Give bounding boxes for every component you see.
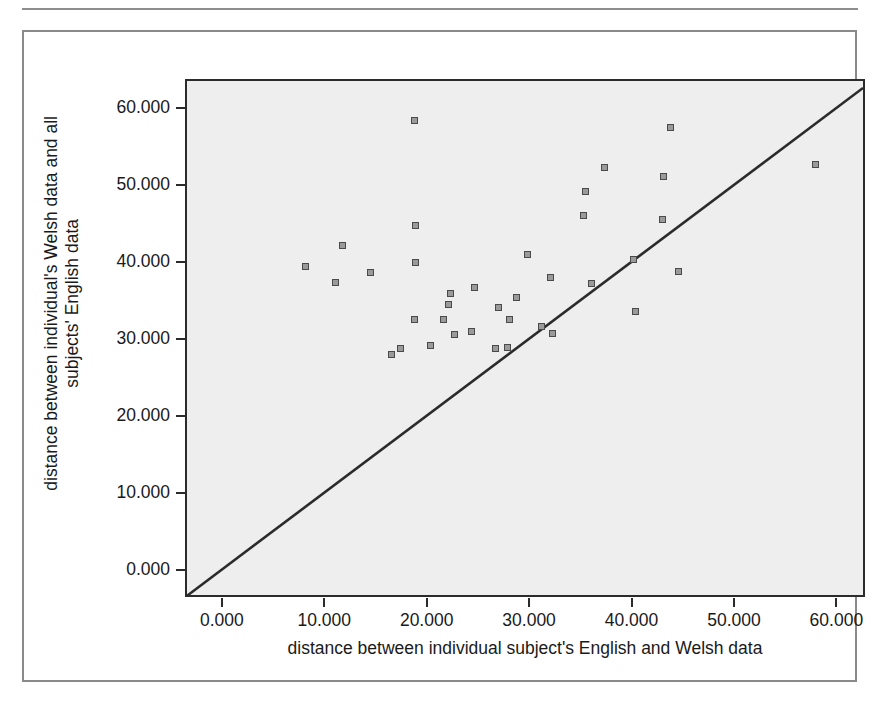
data-point-marker [302,263,309,270]
y-axis-title-line-1: distance between individual's Welsh data… [41,43,62,563]
data-point-marker [411,117,418,124]
data-point-marker [504,344,511,351]
y-axis-tick-label: 30.000 [116,330,170,348]
y-axis-tick-label: 40.000 [116,253,170,271]
y-axis-tick-label: 0.000 [126,561,170,579]
data-point-marker [630,256,637,263]
data-point-marker [632,308,639,315]
data-point-marker [440,316,447,323]
x-axis-tick-label: 40.000 [605,612,659,630]
data-point-marker [588,280,595,287]
x-axis-tick-label: 60.000 [810,612,864,630]
data-point-marker [538,323,545,330]
y-axis-tick-label: 10.000 [116,484,170,502]
y-axis-tick-label: 50.000 [116,176,170,194]
x-axis-tick-mark [221,598,223,607]
y-axis-tick-mark [176,569,185,571]
data-point-marker [524,251,531,258]
y-axis-tick-mark [176,415,185,417]
x-axis-tick-mark [426,598,428,607]
x-axis-title: distance between individual subject's En… [185,638,865,659]
data-point-marker [659,216,666,223]
y-axis-tick-mark [176,261,185,263]
plot-surface [187,81,863,595]
y-axis-tick-mark [176,492,185,494]
identity-reference-line [187,88,863,595]
data-point-marker [675,268,682,275]
reference-line-layer [187,81,863,595]
y-axis-title: distance between individual's Welsh data… [41,43,84,563]
x-axis-tick-label: 20.000 [400,612,454,630]
data-point-marker [506,316,513,323]
x-axis-tick-mark [528,598,530,607]
top-divider-rule [22,8,858,10]
data-point-marker [547,274,554,281]
data-point-marker [447,290,454,297]
data-point-marker [367,269,374,276]
data-point-marker [513,294,520,301]
data-point-marker [667,124,674,131]
data-point-marker [445,301,452,308]
data-point-marker [582,188,589,195]
x-axis-tick-label: 30.000 [502,612,556,630]
data-point-marker [549,330,556,337]
data-point-marker [411,316,418,323]
data-point-marker [660,173,667,180]
data-point-marker [468,328,475,335]
y-axis-tick-label: 60.000 [116,99,170,117]
data-point-marker [601,164,608,171]
x-axis-tick-label: 10.000 [297,612,351,630]
data-point-marker [495,304,502,311]
data-point-marker [492,345,499,352]
data-point-marker [580,212,587,219]
x-axis-tick-mark [631,598,633,607]
x-axis-tick-label: 0.000 [200,612,244,630]
x-axis-tick-mark [733,598,735,607]
scatter-plot-panel [185,79,865,597]
x-axis-tick-mark [323,598,325,607]
data-point-marker [412,222,419,229]
data-point-marker [812,161,819,168]
y-axis-tick-label: 20.000 [116,407,170,425]
data-point-marker [388,351,395,358]
y-axis-title-line-2: subjects' English data [62,43,83,563]
data-point-marker [412,259,419,266]
data-point-marker [427,342,434,349]
data-point-marker [332,279,339,286]
data-point-marker [339,242,346,249]
data-point-marker [451,331,458,338]
data-point-marker [397,345,404,352]
x-axis-tick-mark [835,598,837,607]
x-axis-tick-label: 50.000 [707,612,761,630]
data-point-marker [471,284,478,291]
y-axis-tick-mark [176,107,185,109]
figure-frame: 0.00010.00020.00030.00040.00050.00060.00… [22,30,857,682]
y-axis-tick-mark [176,184,185,186]
y-axis-tick-mark [176,338,185,340]
